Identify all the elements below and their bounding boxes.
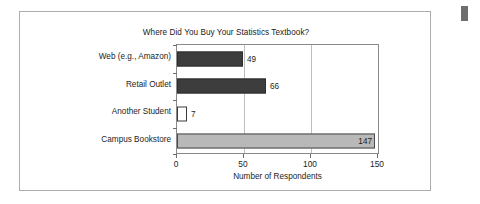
x-tick-line-100 xyxy=(310,154,311,158)
bar-value-campus-bookstore: 147 xyxy=(358,137,372,146)
x-axis-title: Number of Respondents xyxy=(176,172,379,181)
y-axis-label-campus-bookstore: Campus Bookstore xyxy=(101,136,171,144)
y-axis-label-another-student: Another Student xyxy=(112,108,171,116)
x-tick-label-100: 100 xyxy=(303,159,317,169)
bar-row-retail-outlet: 66 xyxy=(177,73,378,101)
x-tick-line-50 xyxy=(243,154,244,158)
y-axis-label-web: Web (e.g., Amazon) xyxy=(99,53,171,61)
y-axis-label-retail-outlet: Retail Outlet xyxy=(126,81,171,89)
chart-title: Where Did You Buy Your Statistics Textbo… xyxy=(20,28,432,37)
bar-another-student[interactable] xyxy=(177,106,187,121)
bar-value-web: 49 xyxy=(247,54,256,63)
bar-row-web: 49 xyxy=(177,45,378,73)
x-axis: 0 50 100 150 xyxy=(176,154,379,170)
plot-area: 49 66 7 147 xyxy=(176,44,379,154)
bar-value-another-student: 7 xyxy=(191,109,196,118)
bar-web[interactable] xyxy=(177,51,243,66)
page-margin-mark xyxy=(461,6,468,21)
x-tick-line-0 xyxy=(176,154,177,158)
bar-row-another-student: 7 xyxy=(177,100,378,128)
chart-figure-frame: Where Did You Buy Your Statistics Textbo… xyxy=(19,11,431,191)
x-tick-label-150: 150 xyxy=(370,159,384,169)
x-tick-label-0: 0 xyxy=(174,159,179,169)
x-tick-label-50: 50 xyxy=(238,159,247,169)
x-tick-line-150 xyxy=(377,154,378,158)
bar-retail-outlet[interactable] xyxy=(177,79,266,94)
y-axis-category-labels: Web (e.g., Amazon) Retail Outlet Another… xyxy=(20,44,176,154)
bar-campus-bookstore[interactable] xyxy=(177,134,375,149)
bar-row-campus-bookstore: 147 xyxy=(177,128,378,156)
bar-value-retail-outlet: 66 xyxy=(270,82,279,91)
